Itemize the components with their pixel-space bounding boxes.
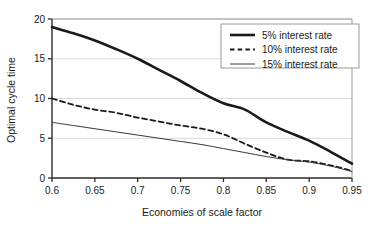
optimal-cycle-time-line-chart: 05101520 0.60.650.70.750.80.850.90.95 5%…	[0, 0, 372, 227]
x-tick-label: 0.75	[171, 185, 191, 196]
series-line-2	[52, 122, 352, 171]
x-tick-label: 0.7	[131, 185, 145, 196]
x-tick-label: 0.8	[216, 185, 230, 196]
x-tick-label: 0.85	[257, 185, 277, 196]
y-axis-title: Optimal cycle time	[5, 57, 17, 143]
y-tick-label: 0	[39, 173, 45, 184]
y-tick-label: 10	[34, 93, 46, 104]
x-axis-title: Economies of scale factor	[142, 206, 263, 218]
y-tick-label: 5	[39, 133, 45, 144]
x-tick-label: 0.65	[85, 185, 105, 196]
chart-legend: 5% interest rate10% interest rate15% int…	[221, 24, 359, 70]
series-line-1	[52, 99, 352, 171]
x-tick-label: 0.9	[302, 185, 316, 196]
x-axis-ticks: 0.60.650.70.750.80.850.90.95	[45, 178, 362, 196]
y-axis-ticks: 05101520	[34, 14, 52, 184]
y-tick-label: 15	[34, 53, 46, 64]
x-tick-label: 0.6	[45, 185, 59, 196]
legend-label: 5% interest rate	[262, 30, 332, 41]
legend-label: 15% interest rate	[262, 59, 338, 70]
legend-label: 10% interest rate	[262, 44, 338, 55]
chart-container: 05101520 0.60.650.70.750.80.850.90.95 5%…	[0, 0, 372, 227]
y-tick-label: 20	[34, 14, 46, 25]
x-tick-label: 0.95	[342, 185, 362, 196]
